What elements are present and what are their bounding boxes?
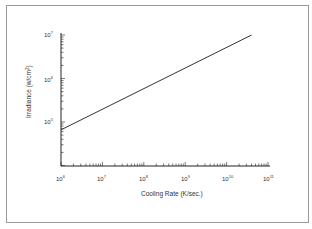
- y-tick-label: 106: [44, 75, 54, 83]
- x-tick-label: 109: [181, 174, 191, 182]
- chart-svg: 107 106 105 106 107 108 109 1010 1011 Co…: [0, 0, 312, 229]
- y-axis-title: Irradiance (w/cm2): [25, 65, 34, 118]
- x-tick-label: 107: [97, 174, 107, 182]
- y-tick-label: 105: [44, 117, 54, 125]
- data-series-line: [61, 35, 252, 130]
- x-tick-label: 108: [139, 174, 149, 182]
- x-axis-ticks: [61, 162, 268, 166]
- x-tick-label: 1010: [222, 174, 234, 182]
- x-axis-title: Cooling Rate (K/sec.): [141, 190, 203, 198]
- y-tick-label: 107: [44, 30, 54, 38]
- y-axis-ticks: [61, 35, 65, 166]
- x-tick-label: 106: [56, 174, 66, 182]
- x-tick-label: 1011: [263, 174, 275, 182]
